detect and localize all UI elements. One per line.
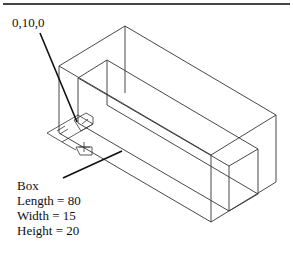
box-info: Box Length = 80 Width = 15 Height = 20 bbox=[17, 178, 81, 238]
outer-box bbox=[59, 26, 276, 222]
box-title: Box bbox=[17, 178, 81, 193]
coordinate-label: 0,10,0 bbox=[12, 15, 45, 31]
inner-box bbox=[78, 60, 258, 211]
box-width: Width = 15 bbox=[17, 208, 81, 223]
box-length: Length = 80 bbox=[17, 193, 81, 208]
box-height: Height = 20 bbox=[17, 223, 81, 238]
coordinate-leader-line bbox=[40, 33, 77, 122]
